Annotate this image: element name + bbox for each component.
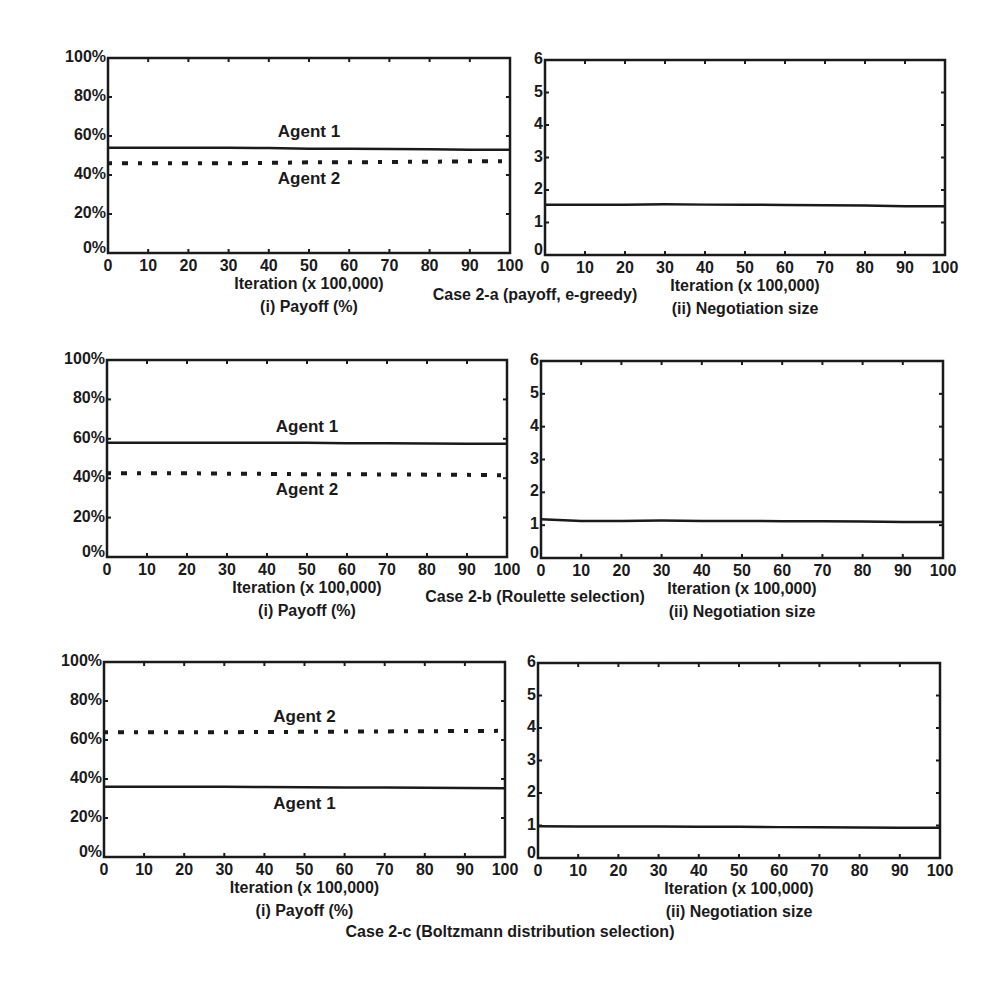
axes-frame xyxy=(545,60,945,255)
x-tick-label: 80 xyxy=(845,259,885,277)
x-tick-label: 40 xyxy=(682,562,722,580)
y-tick-label: 3 xyxy=(479,450,539,468)
series-annotation: Agent 2 xyxy=(249,169,369,189)
x-tick-label: 90 xyxy=(445,861,485,879)
x-tick-label: 50 xyxy=(722,562,762,580)
y-tick-label: 100% xyxy=(42,652,102,670)
x-tick-label: 60 xyxy=(759,862,799,880)
x-tick-label: 80 xyxy=(405,861,445,879)
x-tick-label: 80 xyxy=(410,257,450,275)
x-tick-label: 40 xyxy=(685,259,725,277)
series-agent-1 xyxy=(107,443,507,444)
y-tick-label: 20% xyxy=(46,204,106,222)
y-tick-label: 1 xyxy=(483,213,543,231)
x-tick-label: 60 xyxy=(765,259,805,277)
series-annotation: Agent 1 xyxy=(245,794,365,814)
x-tick-label: 0 xyxy=(87,561,127,579)
y-tick-label: 5 xyxy=(483,83,543,101)
x-tick-label: 20 xyxy=(605,259,645,277)
axes-frame xyxy=(108,58,510,253)
x-tick-label: 0 xyxy=(84,861,124,879)
x-tick-label: 30 xyxy=(207,561,247,579)
series-agent-1 xyxy=(108,148,510,150)
x-tick-label: 70 xyxy=(367,561,407,579)
x-tick-label: 0 xyxy=(521,562,561,580)
x-tick-label: 0 xyxy=(88,257,128,275)
x-tick-label: 100 xyxy=(925,259,965,277)
y-tick-label: 40% xyxy=(42,769,102,787)
y-tick-label: 80% xyxy=(42,691,102,709)
x-tick-label: 10 xyxy=(124,861,164,879)
y-tick-label: 0 xyxy=(483,241,543,259)
y-tick-label: 80% xyxy=(46,87,106,105)
x-tick-label: 50 xyxy=(285,861,325,879)
x-tick-label: 50 xyxy=(719,862,759,880)
x-tick-label: 10 xyxy=(558,862,598,880)
x-tick-label: 0 xyxy=(525,259,565,277)
x-tick-label: 60 xyxy=(325,861,365,879)
x-tick-label: 30 xyxy=(204,861,244,879)
y-tick-label: 6 xyxy=(479,351,539,369)
x-tick-label: 60 xyxy=(329,257,369,275)
y-tick-label: 4 xyxy=(483,115,543,133)
x-axis-label: Iteration (x 100,000) xyxy=(105,879,505,897)
y-tick-label: 0% xyxy=(45,543,105,561)
x-tick-label: 100 xyxy=(490,257,530,275)
x-tick-label: 10 xyxy=(561,562,601,580)
x-axis-label: Iteration (x 100,000) xyxy=(539,880,939,898)
x-tick-label: 90 xyxy=(450,257,490,275)
x-tick-label: 30 xyxy=(639,862,679,880)
series-agent-2 xyxy=(104,731,505,732)
y-tick-label: 100% xyxy=(45,350,105,368)
y-tick-label: 2 xyxy=(479,482,539,500)
y-tick-label: 60% xyxy=(46,126,106,144)
y-tick-label: 60% xyxy=(42,730,102,748)
x-tick-label: 0 xyxy=(518,862,558,880)
x-tick-label: 100 xyxy=(920,862,960,880)
y-tick-label: 1 xyxy=(476,816,536,834)
y-tick-label: 5 xyxy=(479,384,539,402)
case-caption: Case 2-a (payoff, e-greedy) xyxy=(235,286,835,304)
series-agent-2 xyxy=(108,161,510,163)
y-tick-label: 5 xyxy=(476,686,536,704)
axes-frame xyxy=(541,361,943,558)
series-agent-2 xyxy=(107,473,507,475)
x-tick-label: 20 xyxy=(167,561,207,579)
x-tick-label: 70 xyxy=(365,861,405,879)
x-tick-label: 50 xyxy=(289,257,329,275)
case-caption: Case 2-b (Roulette selection) xyxy=(235,588,835,606)
x-tick-label: 60 xyxy=(327,561,367,579)
y-tick-label: 0 xyxy=(479,544,539,562)
y-tick-label: 60% xyxy=(45,429,105,447)
y-tick-label: 6 xyxy=(483,50,543,68)
x-tick-label: 50 xyxy=(725,259,765,277)
x-tick-label: 90 xyxy=(885,259,925,277)
y-tick-label: 40% xyxy=(45,468,105,486)
series-agent-1 xyxy=(104,787,505,788)
series-annotation: Agent 2 xyxy=(245,707,365,727)
x-tick-label: 50 xyxy=(287,561,327,579)
axes-frame xyxy=(538,663,940,858)
y-tick-label: 0% xyxy=(42,843,102,861)
series-negotiation-size xyxy=(541,519,943,522)
y-tick-label: 80% xyxy=(45,389,105,407)
x-tick-label: 40 xyxy=(244,861,284,879)
y-tick-label: 2 xyxy=(483,180,543,198)
y-tick-label: 0 xyxy=(476,844,536,862)
x-tick-label: 30 xyxy=(209,257,249,275)
y-tick-label: 1 xyxy=(479,515,539,533)
axes-frame xyxy=(104,662,505,857)
y-tick-label: 3 xyxy=(476,751,536,769)
y-tick-label: 100% xyxy=(46,48,106,66)
series-annotation: Agent 1 xyxy=(247,417,367,437)
axes-frame xyxy=(107,360,507,557)
y-tick-label: 40% xyxy=(46,165,106,183)
series-negotiation-size xyxy=(538,826,940,828)
x-tick-label: 70 xyxy=(799,862,839,880)
x-tick-label: 60 xyxy=(762,562,802,580)
x-tick-label: 90 xyxy=(880,862,920,880)
y-tick-label: 6 xyxy=(476,653,536,671)
x-tick-label: 10 xyxy=(128,257,168,275)
x-tick-label: 80 xyxy=(840,862,880,880)
y-tick-label: 20% xyxy=(42,808,102,826)
